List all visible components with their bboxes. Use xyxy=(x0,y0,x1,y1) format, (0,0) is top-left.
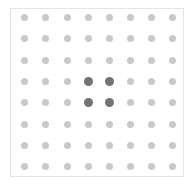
grid-dot[interactable] xyxy=(169,99,176,106)
grid-dot[interactable] xyxy=(85,163,92,170)
grid-dot-selected[interactable] xyxy=(105,98,114,107)
grid-dot[interactable] xyxy=(148,121,155,128)
grid-dot[interactable] xyxy=(42,57,49,64)
grid-dot[interactable] xyxy=(148,14,155,21)
grid-dot-selected[interactable] xyxy=(84,77,93,86)
grid-dot[interactable] xyxy=(169,78,176,85)
grid-dot[interactable] xyxy=(21,163,28,170)
grid-dot[interactable] xyxy=(106,14,113,21)
grid-dot[interactable] xyxy=(42,99,49,106)
grid-dot[interactable] xyxy=(42,142,49,149)
dot-grid-frame xyxy=(10,8,184,177)
grid-dot[interactable] xyxy=(21,78,28,85)
grid-dot[interactable] xyxy=(106,163,113,170)
grid-dot[interactable] xyxy=(85,35,92,42)
grid-dot[interactable] xyxy=(127,163,134,170)
grid-dot[interactable] xyxy=(127,121,134,128)
grid-dot[interactable] xyxy=(85,121,92,128)
grid-dot[interactable] xyxy=(148,142,155,149)
grid-dot-selected[interactable] xyxy=(84,98,93,107)
grid-dot[interactable] xyxy=(169,14,176,21)
grid-dot[interactable] xyxy=(85,142,92,149)
grid-dot[interactable] xyxy=(85,57,92,64)
grid-dot-selected[interactable] xyxy=(105,77,114,86)
grid-dot[interactable] xyxy=(85,14,92,21)
grid-dot[interactable] xyxy=(42,163,49,170)
grid-dot[interactable] xyxy=(106,57,113,64)
grid-dot[interactable] xyxy=(169,35,176,42)
grid-dot[interactable] xyxy=(106,142,113,149)
grid-dot[interactable] xyxy=(127,57,134,64)
grid-dot[interactable] xyxy=(42,35,49,42)
grid-dot[interactable] xyxy=(148,35,155,42)
grid-dot[interactable] xyxy=(106,35,113,42)
grid-dot[interactable] xyxy=(148,57,155,64)
grid-dot[interactable] xyxy=(106,121,113,128)
grid-dot[interactable] xyxy=(42,78,49,85)
grid-dot[interactable] xyxy=(21,142,28,149)
grid-dot[interactable] xyxy=(64,14,71,21)
grid-dot[interactable] xyxy=(21,121,28,128)
grid-dot[interactable] xyxy=(42,121,49,128)
grid-dot[interactable] xyxy=(64,142,71,149)
grid-dot[interactable] xyxy=(64,35,71,42)
grid-dot[interactable] xyxy=(127,99,134,106)
grid-dot[interactable] xyxy=(148,78,155,85)
grid-dot[interactable] xyxy=(21,99,28,106)
grid-dot[interactable] xyxy=(148,99,155,106)
grid-dot[interactable] xyxy=(21,57,28,64)
grid-dot[interactable] xyxy=(169,142,176,149)
grid-dot[interactable] xyxy=(64,99,71,106)
grid-dot[interactable] xyxy=(21,14,28,21)
grid-dot[interactable] xyxy=(127,142,134,149)
grid-dot[interactable] xyxy=(64,121,71,128)
grid-dot[interactable] xyxy=(148,163,155,170)
grid-dot[interactable] xyxy=(127,78,134,85)
grid-dot[interactable] xyxy=(169,121,176,128)
grid-dot[interactable] xyxy=(169,57,176,64)
grid-dot[interactable] xyxy=(42,14,49,21)
grid-dot[interactable] xyxy=(169,163,176,170)
grid-dot[interactable] xyxy=(64,163,71,170)
grid-dot[interactable] xyxy=(127,35,134,42)
grid-dot[interactable] xyxy=(21,35,28,42)
grid-dot[interactable] xyxy=(64,78,71,85)
grid-dot[interactable] xyxy=(127,14,134,21)
grid-dot[interactable] xyxy=(64,57,71,64)
